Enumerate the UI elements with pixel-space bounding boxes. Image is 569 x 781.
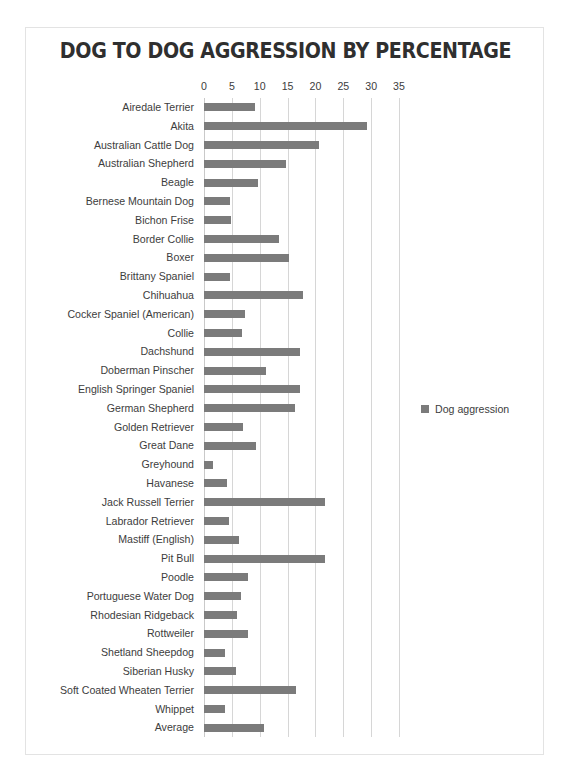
- category-label: Beagle: [30, 173, 200, 192]
- bar-row: [204, 136, 399, 155]
- bar: [204, 573, 248, 581]
- category-label: Average: [30, 718, 200, 737]
- bar: [204, 630, 248, 638]
- bar: [204, 611, 237, 619]
- bar: [204, 423, 243, 431]
- category-label: Jack Russell Terrier: [30, 493, 200, 512]
- category-label: Dachshund: [30, 342, 200, 361]
- bar: [204, 235, 279, 243]
- category-label: Great Dane: [30, 436, 200, 455]
- bar: [204, 141, 319, 149]
- bar: [204, 291, 303, 299]
- bar-row: [204, 267, 399, 286]
- legend-swatch-dog-aggression: [421, 405, 429, 413]
- bar-row: [204, 606, 399, 625]
- bar-row: [204, 305, 399, 324]
- category-label: Cocker Spaniel (American): [30, 305, 200, 324]
- bar: [204, 122, 367, 130]
- category-label: Poodle: [30, 568, 200, 587]
- plot-wrapper: Airedale TerrierAkitaAustralian Cattle D…: [26, 28, 545, 756]
- bar-row: [204, 474, 399, 493]
- bar: [204, 592, 241, 600]
- bar-row: [204, 98, 399, 117]
- plot-area: [204, 98, 399, 737]
- bar-row: [204, 380, 399, 399]
- category-axis: Airedale TerrierAkitaAustralian Cattle D…: [30, 98, 200, 737]
- bar: [204, 442, 256, 450]
- bar: [204, 179, 258, 187]
- category-label: Akita: [30, 117, 200, 136]
- bar-series: [204, 98, 399, 737]
- bar: [204, 103, 255, 111]
- bar: [204, 197, 230, 205]
- bar-row: [204, 399, 399, 418]
- bar-row: [204, 154, 399, 173]
- category-label: Mastiff (English): [30, 530, 200, 549]
- bar-row: [204, 643, 399, 662]
- category-label: Boxer: [30, 248, 200, 267]
- bar: [204, 404, 295, 412]
- bar: [204, 667, 236, 675]
- x-tick-label: 10: [254, 80, 266, 92]
- x-tick-label: 25: [337, 80, 349, 92]
- bar: [204, 348, 300, 356]
- x-tick-label: 15: [282, 80, 294, 92]
- bar: [204, 254, 289, 262]
- bar: [204, 329, 242, 337]
- category-label: Rottweiler: [30, 624, 200, 643]
- legend: Dog aggression: [421, 403, 509, 415]
- bar-row: [204, 568, 399, 587]
- category-label: Shetland Sheepdog: [30, 643, 200, 662]
- category-label: Portuguese Water Dog: [30, 587, 200, 606]
- category-label: English Springer Spaniel: [30, 380, 200, 399]
- bar-row: [204, 361, 399, 380]
- category-label: Labrador Retriever: [30, 512, 200, 531]
- bar-row: [204, 248, 399, 267]
- bar: [204, 273, 230, 281]
- gridline: [399, 98, 400, 737]
- x-tick-label: 5: [229, 80, 235, 92]
- bar-row: [204, 324, 399, 343]
- category-label: Greyhound: [30, 455, 200, 474]
- bar-row: [204, 286, 399, 305]
- category-label: Border Collie: [30, 230, 200, 249]
- bar-row: [204, 117, 399, 136]
- bar: [204, 649, 225, 657]
- bar: [204, 479, 227, 487]
- category-label: Brittany Spaniel: [30, 267, 200, 286]
- category-label: Havanese: [30, 474, 200, 493]
- x-tick-label: 20: [310, 80, 322, 92]
- bar: [204, 517, 229, 525]
- category-label: Golden Retriever: [30, 418, 200, 437]
- bar-row: [204, 624, 399, 643]
- bar-row: [204, 718, 399, 737]
- category-label: German Shepherd: [30, 399, 200, 418]
- category-label: Chihuahua: [30, 286, 200, 305]
- bar-row: [204, 342, 399, 361]
- bar-row: [204, 230, 399, 249]
- bar: [204, 555, 325, 563]
- category-label: Australian Shepherd: [30, 154, 200, 173]
- bar: [204, 536, 239, 544]
- category-label: Whippet: [30, 700, 200, 719]
- category-label: Australian Cattle Dog: [30, 136, 200, 155]
- bar-row: [204, 662, 399, 681]
- bar: [204, 310, 245, 318]
- category-label: Doberman Pinscher: [30, 361, 200, 380]
- legend-label-dog-aggression: Dog aggression: [435, 403, 509, 415]
- bar: [204, 498, 325, 506]
- category-label: Collie: [30, 324, 200, 343]
- bar-row: [204, 173, 399, 192]
- bar-row: [204, 700, 399, 719]
- category-label: Airedale Terrier: [30, 98, 200, 117]
- value-axis: 05101520253035: [204, 80, 404, 96]
- category-label: Siberian Husky: [30, 662, 200, 681]
- bar: [204, 160, 286, 168]
- bar: [204, 216, 231, 224]
- bar-row: [204, 418, 399, 437]
- bar-row: [204, 530, 399, 549]
- x-tick-label: 35: [393, 80, 405, 92]
- bar-row: [204, 493, 399, 512]
- x-tick-label: 0: [201, 80, 207, 92]
- category-label: Pit Bull: [30, 549, 200, 568]
